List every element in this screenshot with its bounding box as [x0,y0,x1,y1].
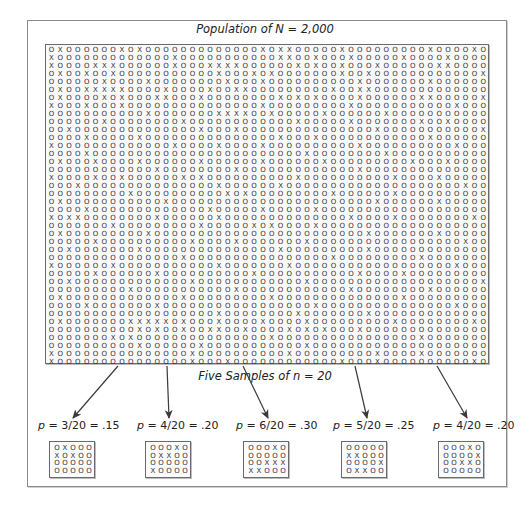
x-mark: X [259,46,268,54]
o-mark: O [408,238,417,246]
o-mark: O [294,70,303,78]
o-mark: O [417,190,426,198]
x-mark: X [276,246,285,254]
o-mark: O [165,468,173,476]
o-mark: O [118,278,127,286]
o-mark: O [382,158,391,166]
o-mark: O [461,246,470,254]
o-mark: O [223,326,232,334]
x-mark: X [294,94,303,102]
o-mark: O [47,190,56,198]
o-mark: O [444,198,453,206]
x-mark: X [452,142,461,150]
o-mark: O [232,246,241,254]
o-mark: O [214,94,223,102]
o-mark: O [311,174,320,182]
o-mark: O [259,246,268,254]
o-mark: O [153,278,162,286]
o-mark: O [259,166,268,174]
o-mark: O [373,254,382,262]
x-mark: X [311,134,320,142]
o-mark: O [461,78,470,86]
o-mark: O [267,238,276,246]
o-mark: O [188,230,197,238]
o-mark: O [338,198,347,206]
o-mark: O [109,214,118,222]
o-mark: O [479,214,488,222]
x-mark: X [118,102,127,110]
o-mark: O [347,318,356,326]
x-mark: X [100,94,109,102]
o-mark: O [153,358,162,366]
o-mark: O [294,286,303,294]
o-mark: O [417,46,426,54]
o-mark: O [153,182,162,190]
o-mark: O [426,230,435,238]
o-mark: O [382,254,391,262]
o-mark: O [355,118,364,126]
o-mark: O [479,286,488,294]
x-mark: X [170,142,179,150]
x-mark: X [347,286,356,294]
o-mark: O [153,158,162,166]
o-mark: O [479,334,488,342]
o-mark: O [179,86,188,94]
o-mark: O [241,78,250,86]
o-mark: O [153,190,162,198]
o-mark: O [135,150,144,158]
o-mark: O [408,342,417,350]
o-mark: O [259,270,268,278]
o-mark: O [355,254,364,262]
o-mark: O [170,230,179,238]
o-mark: O [391,158,400,166]
o-mark: O [303,126,312,134]
o-mark: O [259,310,268,318]
sample-3-box: OOOXOOOOOOOOXXXXXOOO [243,441,289,478]
x-mark: X [144,230,153,238]
o-mark: O [153,286,162,294]
o-mark: O [179,222,188,230]
x-mark: X [56,318,65,326]
o-mark: O [479,118,488,126]
o-mark: O [197,254,206,262]
o-mark: O [294,230,303,238]
o-mark: O [479,150,488,158]
o-mark: O [82,230,91,238]
o-mark: O [377,468,385,476]
o-mark: O [56,222,65,230]
o-mark: O [82,286,91,294]
o-mark: O [170,182,179,190]
o-mark: O [223,102,232,110]
o-mark: O [153,142,162,150]
o-mark: O [250,94,259,102]
o-mark: O [179,102,188,110]
o-mark: O [47,278,56,286]
x-mark: X [135,46,144,54]
o-mark: O [162,270,171,278]
o-mark: O [241,222,250,230]
o-mark: O [444,134,453,142]
o-mark: O [452,254,461,262]
o-mark: O [135,54,144,62]
o-mark: O [162,46,171,54]
o-mark: O [91,350,100,358]
o-mark: O [73,318,82,326]
o-mark: O [294,294,303,302]
o-mark: O [223,166,232,174]
o-mark: O [214,190,223,198]
x-mark: X [373,126,382,134]
o-mark: O [100,166,109,174]
o-mark: O [452,110,461,118]
o-mark: O [259,94,268,102]
o-mark: O [267,302,276,310]
o-mark: O [444,110,453,118]
o-mark: O [206,198,215,206]
o-mark: O [452,326,461,334]
o-mark: O [73,302,82,310]
o-mark: O [82,278,91,286]
o-mark: O [214,254,223,262]
x-mark: X [65,126,74,134]
o-mark: O [126,206,135,214]
x-mark: X [109,70,118,78]
x-mark: X [355,326,364,334]
